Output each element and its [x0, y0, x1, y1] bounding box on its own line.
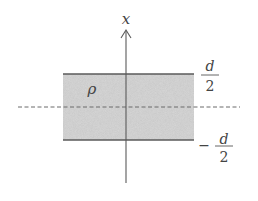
slab-diagram: x ρ d 2 − d 2 [0, 0, 258, 201]
density-label: ρ [87, 80, 97, 98]
bottom-label-denominator: 2 [220, 149, 229, 165]
top-boundary-label: d 2 [201, 58, 219, 94]
top-label-denominator: 2 [206, 78, 215, 94]
bottom-label-sign: − [198, 137, 210, 153]
bottom-boundary-label: − d 2 [198, 131, 233, 165]
top-label-numerator: d [206, 58, 215, 74]
bottom-label-numerator: d [220, 131, 229, 147]
axis-label: x [122, 10, 131, 28]
